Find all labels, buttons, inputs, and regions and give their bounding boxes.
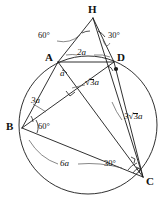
radical-sqrt3: √3 [85, 78, 94, 87]
radical-suffix-a-outer: a [138, 111, 143, 121]
radical-sqrt3-outer: √3 [129, 112, 138, 121]
angle-label-B: 60° [38, 122, 50, 131]
angle-label-H-left: 60° [38, 31, 50, 40]
segment-label-DC: 3 √3 a [124, 112, 142, 121]
radical-suffix-a: a [94, 77, 99, 87]
point-label-B: B [6, 121, 13, 132]
segment-label-AD: 2a [77, 48, 86, 57]
geometry-figure: H A D B C 60° 30° 60° 30° 2a a √3 a 3a 3… [0, 0, 168, 217]
point-marker-D [114, 67, 118, 71]
point-label-H: H [88, 4, 97, 15]
leader-6a [29, 140, 58, 164]
segment-HA [58, 18, 93, 62]
segment-label-PD: √3 a [85, 78, 99, 87]
angle-label-C: 30° [104, 159, 116, 168]
radical-overbar-outer [133, 113, 138, 114]
point-label-C: C [146, 176, 154, 187]
segment-label-AP: a [60, 69, 65, 78]
leader-2a-left [66, 55, 77, 56]
segment-HC [93, 18, 143, 177]
point-label-D: D [117, 52, 125, 63]
segment-label-AB: 3a [31, 96, 40, 105]
segment-AB [22, 62, 58, 128]
segment-label-BC: 6a [60, 159, 69, 168]
radical-overbar [90, 79, 95, 80]
leader-line-group [29, 35, 122, 168]
angle-label-H-right: 30° [108, 31, 120, 40]
angle-arc-H-left [82, 31, 90, 33]
figure-canvas [0, 0, 168, 217]
leader-3a [33, 104, 46, 112]
point-label-A: A [45, 52, 53, 63]
